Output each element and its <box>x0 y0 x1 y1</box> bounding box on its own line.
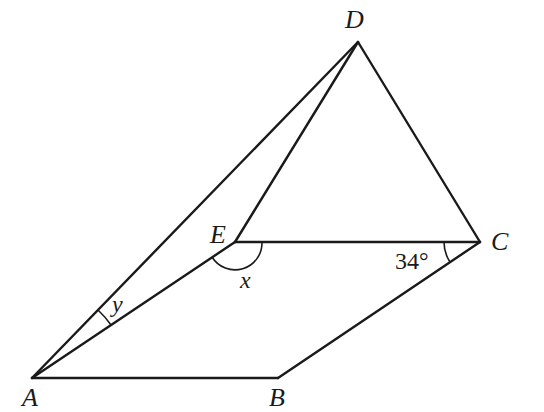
label-e: E <box>209 220 226 249</box>
segment-dc <box>358 42 480 242</box>
label-b: B <box>269 383 285 412</box>
label-a: A <box>20 383 38 412</box>
segment-ed <box>235 42 358 242</box>
angle-x-label: x <box>239 267 251 293</box>
segment-ad <box>32 42 358 378</box>
angle-y-label: y <box>110 291 123 317</box>
angle-c-label: 34° <box>395 248 429 274</box>
angle-y-arc <box>98 310 111 325</box>
geometry-diagram: D E C A B x y 34° <box>0 0 544 412</box>
angle-c-arc <box>444 242 450 262</box>
segment-bc <box>278 242 480 378</box>
label-d: D <box>344 5 364 34</box>
segment-ea <box>32 242 235 378</box>
label-c: C <box>491 227 509 256</box>
